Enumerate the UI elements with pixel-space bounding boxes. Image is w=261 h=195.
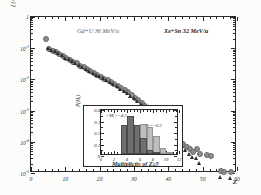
x-tick: [65, 17, 66, 21]
x-tick: [182, 169, 183, 171]
inset-x-tick: [140, 110, 141, 113]
y-tick-minor: [233, 123, 235, 124]
y-tick-minor: [233, 114, 235, 115]
y-tick-minor: [233, 145, 235, 146]
inset-x-tick: [111, 110, 112, 112]
y-tick-minor: [233, 154, 235, 155]
y-tick-minor: [233, 92, 235, 93]
x-tick: [141, 169, 142, 171]
inset-y-tick: [174, 110, 177, 111]
x-tick: [127, 169, 128, 171]
inset-x-tick: [173, 152, 174, 154]
inset-y-tick: [175, 139, 177, 140]
inset-y-tick: [101, 127, 103, 128]
y-tick-minor: [233, 55, 235, 56]
x-tick: [196, 17, 197, 19]
inset-x-tick: [143, 110, 144, 112]
x-tick: [107, 17, 108, 19]
y-tick-minor: [31, 123, 33, 124]
y-tick-minor: [233, 82, 235, 83]
x-tick: [134, 167, 135, 171]
x-tick: [203, 17, 204, 21]
y-tick-minor: [233, 147, 235, 148]
x-tick: [148, 169, 149, 171]
x-tick: [31, 167, 32, 171]
x-tick-label: 0: [30, 176, 33, 182]
x-tick: [155, 17, 156, 19]
data-point: [228, 176, 232, 180]
y-tick-minor: [31, 29, 33, 30]
y-tick-minor: [31, 65, 33, 66]
x-tick: [107, 169, 108, 171]
inset-y-tick: [174, 133, 177, 134]
histogram-bar: [166, 152, 173, 154]
y-tick-minor: [233, 120, 235, 121]
y-tick-minor: [233, 149, 235, 150]
y-tick-minor: [31, 26, 33, 27]
inset-y-tick: [101, 150, 103, 151]
annotation-gd-u: Gd+U 36 MeV/u: [77, 27, 119, 34]
y-tick-minor: [31, 81, 33, 82]
y-tick-minor: [31, 24, 33, 25]
x-tick: [45, 169, 46, 171]
inset-y-tick: [101, 156, 104, 157]
inset-y-tick-label: 0: [90, 154, 100, 159]
x-tick: [175, 17, 176, 19]
x-tick-label: 50: [200, 176, 206, 182]
inset-x-tick: [160, 110, 161, 112]
y-tick-minor: [233, 33, 235, 34]
x-tick: [38, 17, 39, 19]
x-tick: [216, 17, 217, 19]
y-tick-minor: [31, 143, 33, 144]
x-tick: [210, 169, 211, 171]
x-tick: [189, 169, 190, 171]
y-tick-minor: [233, 29, 235, 30]
inset-x-tick: [104, 152, 105, 154]
x-tick: [141, 17, 142, 19]
y-tick-minor: [31, 55, 33, 56]
inset-x-tick: [104, 110, 105, 112]
inset-y-tick: [175, 116, 177, 117]
x-tick: [168, 17, 169, 21]
x-tick: [52, 169, 53, 171]
data-point: [221, 169, 227, 175]
y-tick-minor: [31, 147, 33, 148]
y-tick-minor: [233, 132, 235, 133]
inset-x-tick: [176, 152, 177, 154]
y-tick-minor: [31, 151, 33, 152]
y-tick-minor: [233, 96, 235, 97]
y-tick-minor: [233, 118, 235, 119]
inset-x-tick: [147, 110, 148, 112]
y-tick-minor: [31, 22, 33, 23]
inset-x-tick: [156, 110, 157, 112]
y-tick-minor: [233, 112, 235, 113]
inset-y-tick-label: 0.4: [90, 108, 100, 113]
y-tick-minor: [233, 143, 235, 144]
inset-x-tick: [179, 110, 180, 113]
y-tick-minor: [31, 120, 33, 121]
x-tick: [93, 169, 94, 171]
y-tick-minor: [31, 61, 33, 62]
x-tick: [196, 169, 197, 171]
y-tick-minor: [233, 115, 235, 116]
x-tick: [113, 17, 114, 19]
inset-x-tick: [108, 110, 109, 112]
x-tick: [134, 17, 135, 21]
inset-x-tick-label: 4: [126, 157, 128, 162]
inset-x-tick: [124, 110, 125, 112]
x-tick-label: 10: [63, 176, 69, 182]
inset-y-tick-label: 0.1: [90, 142, 100, 147]
y-tick-minor: [233, 158, 235, 159]
inset-y-tick: [101, 116, 103, 117]
x-tick: [93, 17, 94, 19]
x-tick: [65, 167, 66, 171]
x-tick: [189, 17, 190, 19]
inset-x-tick-label: 10: [164, 157, 169, 162]
data-point: [218, 175, 222, 179]
y-tick-minor: [233, 51, 235, 52]
y-axis-label: (1/Mⱼ) dM/dZ: [9, 0, 16, 37]
inset-y-tick: [174, 156, 177, 157]
inset-plot-axes: 02468101200.10.20.30.4 <Mⱼ>=4.3 <Mⱼ>=6.3: [100, 109, 178, 155]
y-tick-minor: [31, 58, 33, 59]
inset-x-tick: [111, 152, 112, 154]
